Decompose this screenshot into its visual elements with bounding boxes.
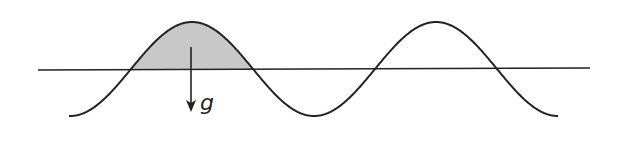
wave-gravity-diagram: g (0, 0, 623, 141)
equilibrium-line (38, 68, 590, 70)
gravity-label: g (200, 90, 214, 115)
